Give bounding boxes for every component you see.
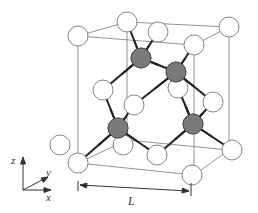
right-arrowhead-icon — [182, 188, 189, 193]
white-atom — [147, 145, 167, 165]
left-arrowhead-icon — [80, 183, 87, 188]
white-atom — [124, 95, 144, 115]
white-atom — [93, 80, 113, 100]
white-atom — [117, 12, 137, 32]
z-axis-label: z — [11, 154, 15, 166]
gray-atom-front — [166, 62, 186, 82]
y-axis-label: y — [46, 166, 51, 178]
atoms — [50, 12, 242, 185]
x-axis-label: x — [46, 191, 51, 203]
cube-edge — [78, 163, 194, 175]
y-axis — [23, 179, 44, 190]
white-atom — [222, 140, 242, 160]
lattice-svg — [0, 0, 258, 213]
dimension-label: L — [128, 194, 135, 209]
white-atom — [182, 165, 202, 185]
white-atom — [68, 153, 88, 173]
white-atom — [148, 22, 168, 42]
gray-atom-front — [108, 118, 128, 138]
white-atom — [50, 135, 70, 155]
white-atom — [184, 35, 204, 55]
gray-atom-front — [131, 48, 151, 68]
cube-edge — [127, 22, 229, 27]
white-atom — [68, 26, 88, 46]
diamond-lattice-diagram: z y x L — [0, 0, 258, 213]
white-atom — [219, 17, 239, 37]
white-atom — [203, 92, 223, 112]
z-arrowhead-icon — [21, 157, 26, 164]
gray-atom-front — [183, 114, 203, 134]
